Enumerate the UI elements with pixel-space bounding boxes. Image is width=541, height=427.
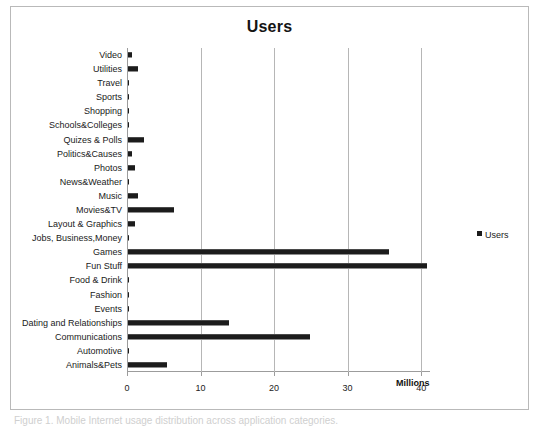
bar-row: Travel bbox=[127, 76, 430, 90]
category-label: Dating and Relationships bbox=[22, 318, 122, 328]
bar[interactable] bbox=[128, 66, 138, 72]
bar[interactable] bbox=[128, 249, 389, 255]
bar[interactable] bbox=[128, 362, 167, 368]
x-tick-label: 10 bbox=[196, 383, 206, 393]
bar-row: Layout & Graphics bbox=[127, 217, 430, 231]
chart-title: Users bbox=[11, 18, 528, 36]
bar[interactable] bbox=[128, 277, 129, 283]
bar-row: Dating and Relationships bbox=[127, 316, 430, 330]
bar[interactable] bbox=[128, 263, 427, 269]
bar-row: Fashion bbox=[127, 287, 430, 301]
bar-row: News&Weather bbox=[127, 175, 430, 189]
bar-row: Automotive bbox=[127, 344, 430, 358]
bar-row: Music bbox=[127, 189, 430, 203]
bar-row: Communications bbox=[127, 330, 430, 344]
bar[interactable] bbox=[128, 221, 135, 227]
category-label: Events bbox=[94, 304, 122, 314]
bar[interactable] bbox=[128, 306, 129, 312]
x-tick-label: 0 bbox=[124, 383, 129, 393]
category-label: Communications bbox=[55, 332, 122, 342]
bar[interactable] bbox=[128, 151, 132, 157]
bar-row: Jobs, Business,Money bbox=[127, 231, 430, 245]
bar[interactable] bbox=[128, 207, 174, 213]
category-label: Layout & Graphics bbox=[48, 219, 122, 229]
tick-mark bbox=[274, 372, 275, 376]
category-label: Travel bbox=[97, 78, 122, 88]
bar[interactable] bbox=[128, 52, 132, 58]
chart-frame: Users 010203040 VideoUtilitiesTravelSpor… bbox=[10, 6, 529, 410]
bar[interactable] bbox=[128, 320, 229, 326]
tick-mark bbox=[127, 372, 128, 376]
category-label: Fashion bbox=[90, 290, 122, 300]
category-label: Politics&Causes bbox=[57, 149, 122, 159]
bar[interactable] bbox=[128, 80, 129, 86]
bar[interactable] bbox=[128, 94, 129, 100]
category-label: Movies&TV bbox=[76, 205, 122, 215]
bar-row: Animals&Pets bbox=[127, 358, 430, 372]
x-axis-title: Millions bbox=[396, 378, 430, 388]
category-label: Music bbox=[98, 191, 122, 201]
bar[interactable] bbox=[128, 348, 129, 354]
category-label: Video bbox=[99, 50, 122, 60]
bar-row: Photos bbox=[127, 161, 430, 175]
bar-row: Politics&Causes bbox=[127, 147, 430, 161]
category-label: Animals&Pets bbox=[66, 360, 122, 370]
bar-row: Fun Stuff bbox=[127, 259, 430, 273]
bar-row: Food & Drink bbox=[127, 273, 430, 287]
bar-row: Utilities bbox=[127, 62, 430, 76]
bar[interactable] bbox=[128, 108, 129, 114]
plot-area: 010203040 VideoUtilitiesTravelSportsShop… bbox=[127, 48, 430, 372]
legend-color-swatch bbox=[477, 231, 482, 236]
bar-row: Events bbox=[127, 302, 430, 316]
bar[interactable] bbox=[128, 179, 129, 185]
bar-row: Games bbox=[127, 245, 430, 259]
category-label: Games bbox=[93, 247, 122, 257]
bar-row: Shopping bbox=[127, 104, 430, 118]
category-label: Shopping bbox=[84, 106, 122, 116]
bar-row: Sports bbox=[127, 90, 430, 104]
category-label: Schools&Colleges bbox=[49, 120, 122, 130]
chart-legend: Users bbox=[477, 229, 509, 240]
page-caption: Figure 1. Mobile Internet usage distribu… bbox=[14, 414, 514, 426]
bar[interactable] bbox=[128, 165, 135, 171]
category-label: Food & Drink bbox=[69, 275, 122, 285]
bar-row: Movies&TV bbox=[127, 203, 430, 217]
bar-row: Schools&Colleges bbox=[127, 118, 430, 132]
category-label: Sports bbox=[96, 92, 122, 102]
category-label: Automotive bbox=[77, 346, 122, 356]
tick-mark bbox=[348, 372, 349, 376]
bar[interactable] bbox=[128, 122, 129, 128]
bar[interactable] bbox=[128, 235, 129, 241]
bar[interactable] bbox=[128, 292, 129, 298]
legend-label: Users bbox=[485, 230, 509, 240]
bar-row: Video bbox=[127, 48, 430, 62]
tick-mark bbox=[201, 372, 202, 376]
category-label: Jobs, Business,Money bbox=[32, 233, 122, 243]
bar[interactable] bbox=[128, 137, 144, 143]
category-label: Photos bbox=[94, 163, 122, 173]
category-label: Fun Stuff bbox=[86, 261, 122, 271]
x-tick-label: 20 bbox=[269, 383, 279, 393]
tick-mark bbox=[421, 372, 422, 376]
bar-row: Quizes & Polls bbox=[127, 133, 430, 147]
category-label: Utilities bbox=[93, 64, 122, 74]
bar[interactable] bbox=[128, 334, 310, 340]
category-label: Quizes & Polls bbox=[63, 135, 122, 145]
bar[interactable] bbox=[128, 193, 138, 199]
category-label: News&Weather bbox=[60, 177, 122, 187]
x-tick-label: 30 bbox=[343, 383, 353, 393]
